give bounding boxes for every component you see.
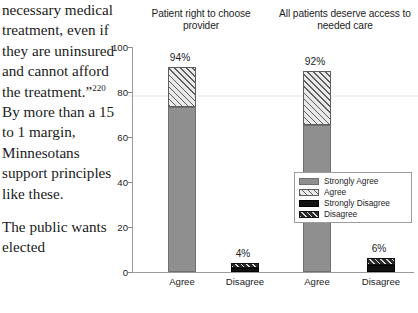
bar-value-p1-agree: 94% [157, 52, 203, 63]
bar-segment-p2-disagree-strongly-disagree [367, 265, 395, 272]
paragraph-one-part-b: By more than a 15 to 1 margin, Minnesota… [2, 103, 114, 202]
panel-title-patient-right: Patient right to choose provider [142, 8, 260, 32]
legend-label-disagree: Disagree [324, 210, 357, 219]
bar-segment-p2-disagree-disagree [367, 258, 395, 265]
legend-swatch-agree-icon [299, 189, 319, 196]
x-tick-label-p2-disagree: Disagree [353, 276, 409, 287]
bar-value-p2-agree: 92% [292, 56, 338, 67]
legend-item-strongly-agree: Strongly Agree [299, 176, 408, 186]
legend-item-agree: Agree [299, 187, 408, 197]
x-tick-label-p1-disagree: Disagree [217, 276, 273, 287]
x-tick-label-p2-agree: Agree [289, 276, 345, 287]
y-tick-label-80: 80 [104, 87, 128, 98]
legend-label-strongly-agree: Strongly Agree [324, 177, 378, 186]
y-axis-line [132, 47, 133, 272]
y-tick-mark-0 [128, 272, 132, 273]
x-tick-label-p1-agree: Agree [154, 276, 210, 287]
legend-item-disagree: Disagree [299, 209, 408, 219]
legend-swatch-disagree-icon [299, 211, 319, 218]
y-tick-label-40: 40 [104, 177, 128, 188]
bar-segment-p2-agree-agree [303, 71, 331, 125]
legend-label-agree: Agree [324, 188, 346, 197]
y-tick-mark-100 [128, 47, 132, 48]
bar-segment-p1-agree-strongly-agree [168, 107, 196, 272]
stacked-bar-chart: Patient right to choose provider All pat… [128, 0, 418, 313]
x-axis-baseline [132, 272, 414, 273]
y-tick-mark-60 [128, 137, 132, 138]
legend-swatch-strongly-disagree-icon [299, 200, 319, 207]
panel-title-access-to-care: All patients deserve access to needed ca… [278, 8, 412, 32]
y-tick-label-100: 100 [104, 42, 128, 53]
bar-value-p1-disagree: 4% [220, 248, 266, 259]
legend-item-strongly-disagree: Strongly Disagree [299, 198, 408, 208]
bar-segment-p1-agree-agree [168, 67, 196, 108]
chart-legend: Strongly Agree Agree Strongly Disagree D… [294, 172, 412, 223]
bar-value-p2-disagree: 6% [356, 243, 402, 254]
y-tick-mark-80 [128, 92, 132, 93]
bar-segment-p1-disagree-strongly-disagree [231, 268, 259, 273]
legend-swatch-strongly-agree-icon [299, 178, 319, 185]
y-tick-mark-40 [128, 182, 132, 183]
y-tick-label-0: 0 [104, 267, 128, 278]
y-tick-label-60: 60 [104, 132, 128, 143]
legend-label-strongly-disagree: Strongly Disagree [324, 199, 390, 208]
y-tick-mark-20 [128, 227, 132, 228]
y-tick-label-20: 20 [104, 222, 128, 233]
paragraph-one: necessary medical treatment, even if the… [2, 0, 124, 204]
